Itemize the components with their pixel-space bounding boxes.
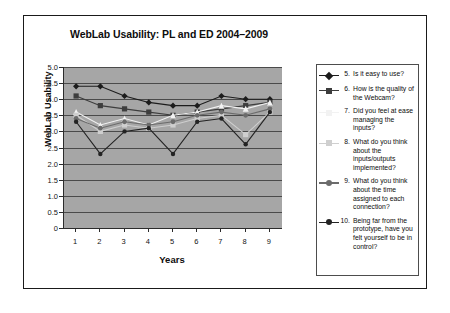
legend-key-icon: [319, 86, 339, 95]
data-point-marker: [218, 93, 224, 99]
y-tick-label: 4.0: [48, 95, 58, 104]
data-point-marker: [74, 120, 78, 124]
x-axis-ticks: 123456789: [63, 228, 283, 250]
x-tick-mark: [99, 228, 100, 232]
y-tick-label: 3.5: [48, 111, 58, 120]
legend-item-label: Being far from the prototype, have you f…: [353, 217, 415, 251]
figure-frame: WebLab Usability: PL and ED 2004–2009 We…: [23, 15, 427, 289]
y-tick-label: 0.5: [48, 207, 58, 216]
legend-item-label: What do you think about the time assigne…: [353, 177, 415, 211]
y-tick-label: 1.5: [48, 175, 58, 184]
legend: 5.Is it easy to use?6.How is the quality…: [316, 64, 419, 276]
data-point-marker: [219, 116, 223, 120]
data-point-marker: [122, 129, 126, 133]
legend-item-4[interactable]: 8.What do you think about the inputs/out…: [319, 138, 415, 172]
legend-item-label: Is it easy to use?: [353, 70, 415, 79]
data-point-marker: [195, 113, 200, 118]
x-tick-mark: [269, 228, 270, 232]
data-point-marker: [171, 119, 176, 124]
data-point-marker: [171, 152, 175, 156]
legend-item-label: Did you feel at ease managing the inputs…: [353, 107, 415, 133]
legend-key-icon: [319, 178, 339, 187]
data-point-marker: [97, 83, 103, 89]
x-tick-label: 9: [267, 237, 271, 246]
data-point-marker: [243, 113, 248, 118]
x-tick-mark: [220, 228, 221, 232]
x-tick-label: 2: [97, 237, 101, 246]
plot-area: [63, 67, 282, 229]
series-line: [76, 112, 270, 154]
data-point-marker: [243, 132, 248, 137]
x-tick-mark: [196, 228, 197, 232]
legend-item-label: How is the quality of the Webcam?: [353, 85, 415, 102]
legend-key-icon: [319, 108, 339, 117]
legend-item-6[interactable]: 10.Being far from the prototype, have yo…: [319, 217, 415, 251]
x-tick-label: 8: [243, 237, 247, 246]
data-point-marker: [195, 120, 199, 124]
x-tick-label: 1: [73, 237, 77, 246]
x-tick-mark: [245, 228, 246, 232]
legend-item-5[interactable]: 9.What do you think about the time assig…: [319, 177, 415, 211]
series-1: [73, 83, 273, 109]
legend-item-2[interactable]: 6.How is the quality of the Webcam?: [319, 85, 415, 102]
data-point-marker: [146, 109, 151, 114]
data-point-marker: [98, 152, 102, 156]
x-tick-mark: [75, 228, 76, 232]
legend-item-3[interactable]: 7.Did you feel at ease managing the inpu…: [319, 107, 415, 133]
x-tick-label: 4: [146, 237, 150, 246]
data-point-marker: [74, 93, 79, 98]
data-point-marker: [243, 96, 249, 102]
legend-key-icon: [319, 139, 339, 148]
data-point-marker: [146, 99, 152, 105]
legend-item-number: 8.: [339, 138, 350, 147]
data-point-marker: [122, 106, 127, 111]
data-point-marker: [121, 93, 127, 99]
plot-container: WebLab Usability 5.04.54.03.53.02.52.01.…: [24, 16, 314, 290]
x-tick-label: 6: [194, 237, 198, 246]
y-tick-label: 2.0: [48, 159, 58, 168]
legend-item-number: 9.: [339, 177, 350, 186]
data-point-marker: [98, 103, 103, 108]
data-point-marker: [219, 110, 224, 115]
data-point-marker: [170, 103, 176, 109]
y-tick-label: 2.5: [48, 143, 58, 152]
y-axis-ticks: 5.04.54.03.53.02.52.01.51.00.50: [24, 60, 63, 235]
data-point-marker: [147, 126, 151, 130]
x-tick-label: 5: [170, 237, 174, 246]
data-series-layer: [64, 67, 282, 228]
y-tick-label: 0: [54, 224, 58, 233]
x-tick-mark: [124, 228, 125, 232]
legend-item-number: 6.: [339, 85, 350, 94]
y-tick-label: 4.5: [48, 79, 58, 88]
data-point-marker: [98, 126, 103, 131]
legend-item-number: 10.: [339, 217, 350, 226]
legend-key-icon: [319, 71, 339, 80]
data-point-marker: [243, 142, 247, 146]
legend-item-number: 7.: [339, 107, 350, 116]
legend-item-1[interactable]: 5.Is it easy to use?: [319, 70, 415, 80]
data-point-marker: [194, 103, 200, 109]
x-tick-label: 7: [218, 237, 222, 246]
legend-item-label: What do you think about the inputs/outpu…: [353, 138, 415, 172]
y-tick-label: 1.0: [48, 191, 58, 200]
data-point-marker: [268, 110, 272, 114]
data-point-marker: [73, 83, 79, 89]
legend-key-icon: [319, 218, 339, 227]
x-tick-mark: [148, 228, 149, 232]
x-tick-label: 3: [121, 237, 125, 246]
legend-item-number: 5.: [339, 70, 350, 79]
x-tick-mark: [172, 228, 173, 232]
y-tick-label: 3.0: [48, 127, 58, 136]
data-point-marker: [122, 119, 127, 124]
x-axis-label: Years: [63, 254, 281, 265]
y-tick-label: 5.0: [48, 63, 58, 72]
